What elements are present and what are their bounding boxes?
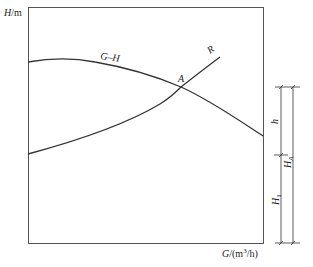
- system-curve-r: [28, 57, 220, 154]
- diagram-canvas: H/m G–H R A G/(m3/h) h HA H1: [0, 0, 313, 267]
- curve-label-r: R: [204, 43, 216, 56]
- pump-curve-g-h: [28, 59, 263, 136]
- x-axis-label: G/(m3/h): [222, 247, 258, 260]
- plot-frame: [29, 8, 264, 244]
- dim-label-h: h: [269, 119, 280, 124]
- intersection-label-a: A: [177, 73, 185, 84]
- curve-label-g-h: G–H: [100, 50, 122, 64]
- y-axis-label: H/m: [3, 7, 22, 18]
